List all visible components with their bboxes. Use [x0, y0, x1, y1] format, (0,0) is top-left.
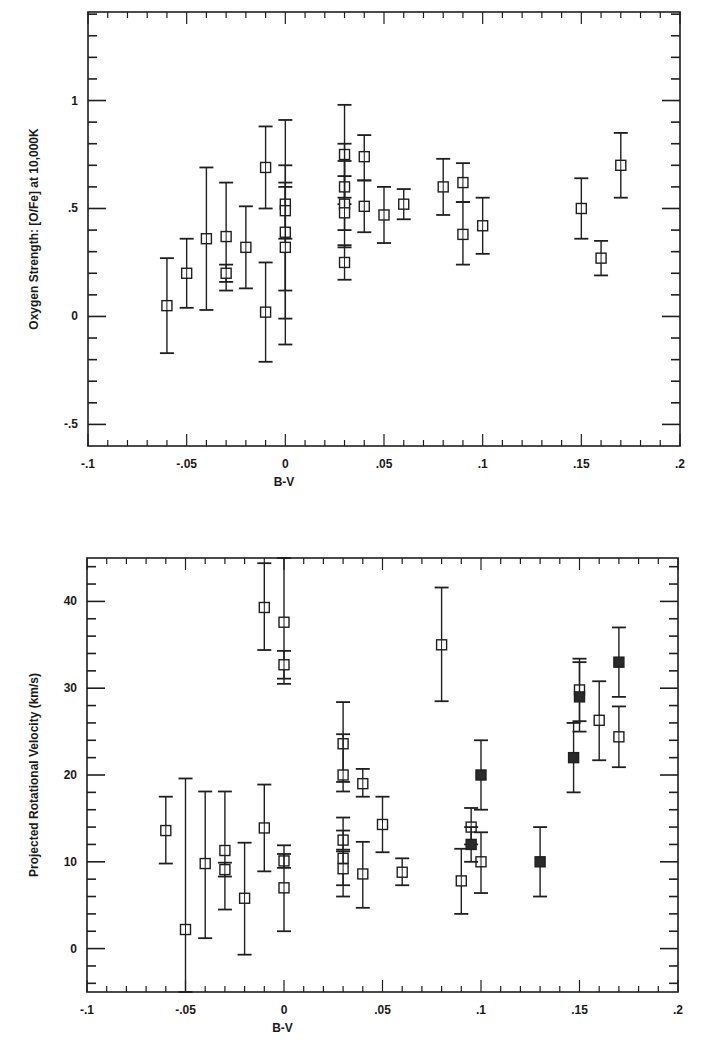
open-data-point [219, 265, 233, 282]
open-data-point [574, 178, 588, 238]
y-tick-label: .5 [68, 201, 78, 215]
open-data-point [612, 706, 626, 767]
open-data-point [614, 133, 628, 198]
x-tick-label: .2 [673, 1003, 683, 1017]
x-tick-label: .1 [476, 1003, 486, 1017]
filled-data-point [612, 627, 626, 696]
open-data-point [476, 198, 490, 254]
x-tick-label: .1 [478, 457, 488, 471]
open-data-point [238, 843, 252, 955]
open-data-point [592, 681, 606, 760]
open-data-point [257, 563, 271, 650]
open-data-point [199, 167, 213, 310]
open-data-point [179, 778, 193, 992]
open-data-point [239, 206, 253, 288]
x-axis-label: B-V [272, 1021, 293, 1035]
y-tick-label: 30 [64, 681, 78, 695]
filled-data-point [533, 827, 547, 896]
y-axis-label: Projected Rotational Velocity (km/s) [27, 673, 41, 877]
x-tick-label: -.05 [176, 457, 197, 471]
y-tick-label: 0 [71, 309, 78, 323]
open-data-point [357, 180, 371, 232]
open-data-point [259, 126, 273, 208]
open-data-point [160, 258, 174, 353]
oxygen-strength-plot: -.1-.050.05.1.15.2-.50.51B-VOxygen Stren… [0, 0, 703, 520]
open-data-point [356, 842, 370, 908]
y-tick-label: 10 [64, 855, 78, 869]
x-tick-label: .05 [374, 1003, 391, 1017]
y-axis-label: Oxygen Strength: [O/Fe] at 10,000K [27, 128, 41, 330]
open-data-point [454, 849, 468, 914]
open-data-point [356, 769, 370, 797]
data-points [160, 105, 628, 362]
open-data-point [377, 187, 391, 243]
open-data-point [198, 791, 212, 938]
open-data-point [259, 262, 273, 361]
x-tick-label: .05 [376, 457, 393, 471]
open-data-point [435, 588, 449, 702]
x-tick-label: .15 [571, 1003, 588, 1017]
y-tick-label: -.5 [64, 417, 78, 431]
y-tick-label: 20 [64, 768, 78, 782]
filled-data-point [474, 740, 488, 809]
plot-frame [87, 558, 678, 992]
open-data-point [218, 863, 232, 877]
x-tick-label: .15 [573, 457, 590, 471]
x-tick-label: 0 [281, 1003, 288, 1017]
open-data-point [218, 791, 232, 909]
open-data-point [397, 189, 411, 219]
open-data-point [338, 245, 352, 280]
open-data-point [159, 797, 173, 864]
data-points [159, 558, 626, 992]
x-tick-label: -.1 [80, 1003, 94, 1017]
open-data-point [395, 858, 409, 885]
open-data-point [376, 797, 390, 853]
filled-data-point [567, 723, 581, 792]
x-tick-label: -.05 [175, 1003, 196, 1017]
open-data-point [456, 163, 470, 202]
x-tick-label: -.1 [81, 457, 95, 471]
open-data-point [277, 651, 291, 679]
open-data-point [357, 135, 371, 180]
x-axis-label: B-V [274, 475, 295, 489]
open-data-point [436, 159, 450, 215]
open-data-point [257, 785, 271, 872]
open-data-point [456, 202, 470, 265]
rotational-velocity-plot: -.1-.050.05.1.15.2010203040B-VProjected … [0, 540, 703, 1062]
open-data-point [594, 241, 608, 276]
x-tick-label: .2 [675, 457, 685, 471]
y-tick-label: 1 [71, 94, 78, 108]
oxygen-strength-chart: -.1-.050.05.1.15.2-.50.51B-VOxygen Stren… [0, 0, 703, 520]
x-tick-label: 0 [282, 457, 289, 471]
rotational-velocity-chart: -.1-.050.05.1.15.2010203040B-VProjected … [0, 540, 703, 1062]
open-data-point [180, 239, 194, 308]
y-tick-label: 40 [64, 594, 78, 608]
y-tick-label: 0 [70, 942, 77, 956]
